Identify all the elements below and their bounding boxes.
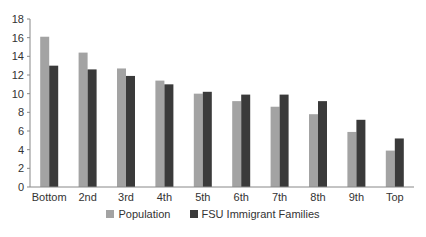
legend-label-population: Population — [118, 208, 170, 220]
y-tick-label: 14 — [12, 50, 24, 62]
bar-population — [232, 101, 241, 187]
x-tick-label: 8th — [310, 191, 325, 203]
bar-fsu — [49, 66, 58, 187]
legend-swatch-fsu — [190, 210, 198, 218]
bar-population — [117, 68, 126, 187]
x-tick-label: 9th — [349, 191, 364, 203]
bar-fsu — [203, 92, 212, 187]
bar-population — [386, 151, 395, 187]
x-tick-label: Top — [386, 191, 404, 203]
y-tick-label: 10 — [12, 88, 24, 100]
bar-population — [194, 94, 203, 187]
legend-label-fsu: FSU Immigrant Families — [202, 208, 320, 220]
x-tick-label: 5th — [195, 191, 210, 203]
legend-item-fsu: FSU Immigrant Families — [190, 208, 320, 220]
bar-population — [79, 53, 88, 187]
bar-chart: 024681012141618 Bottom2nd3rd4th5th6th7th… — [0, 0, 426, 237]
y-tick-label: 4 — [18, 144, 24, 156]
bar-fsu — [280, 95, 289, 187]
legend-item-population: Population — [106, 208, 170, 220]
x-tick-label: 7th — [272, 191, 287, 203]
x-tick-label: 6th — [234, 191, 249, 203]
bar-population — [271, 107, 280, 187]
bar-population — [40, 37, 49, 187]
y-tick-label: 16 — [12, 32, 24, 44]
bar-population — [347, 132, 356, 187]
x-tick-label: 3rd — [118, 191, 134, 203]
bar-fsu — [88, 69, 97, 187]
bar-fsu — [318, 101, 327, 187]
x-tick-label: Bottom — [32, 191, 67, 203]
y-tick-label: 12 — [12, 69, 24, 81]
y-tick-label: 0 — [18, 181, 24, 193]
x-tick-label: 4th — [157, 191, 172, 203]
bars — [40, 37, 404, 187]
x-tick-label: 2nd — [78, 191, 96, 203]
y-tick-label: 18 — [12, 13, 24, 25]
bar-fsu — [395, 138, 404, 187]
x-axis: Bottom2nd3rd4th5th6th7th8th9thTop — [30, 187, 414, 203]
y-tick-label: 2 — [18, 162, 24, 174]
y-tick-label: 8 — [18, 106, 24, 118]
bar-fsu — [126, 76, 135, 187]
bar-population — [309, 114, 318, 187]
y-axis: 024681012141618 — [12, 13, 30, 193]
bar-population — [155, 81, 164, 187]
bar-fsu — [356, 120, 365, 187]
bar-fsu — [164, 84, 173, 187]
y-tick-label: 6 — [18, 125, 24, 137]
legend-swatch-population — [106, 210, 114, 218]
bar-fsu — [241, 95, 250, 187]
legend: Population FSU Immigrant Families — [0, 208, 426, 220]
